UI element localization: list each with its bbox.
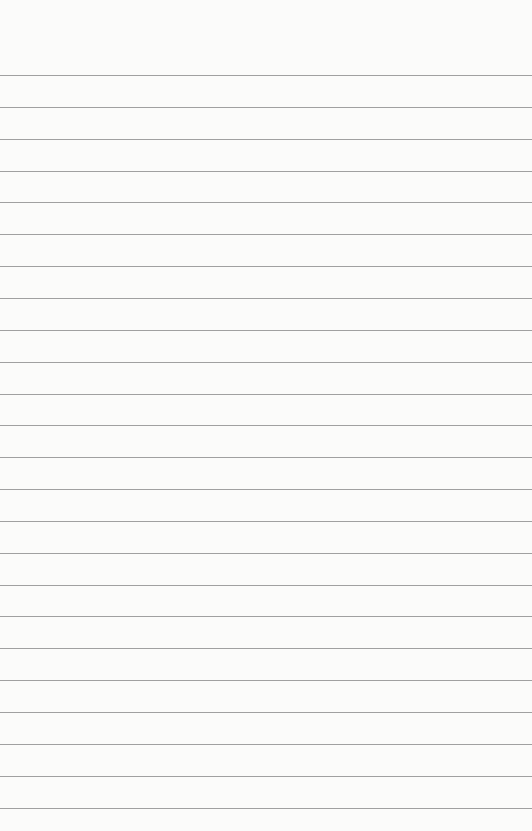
ruled-line [0, 808, 532, 809]
ruled-line [0, 75, 532, 76]
ruled-line [0, 362, 532, 363]
ruled-line [0, 616, 532, 617]
ruled-line [0, 394, 532, 395]
ruled-line [0, 585, 532, 586]
ruled-line [0, 776, 532, 777]
ruled-line [0, 648, 532, 649]
lined-paper-sheet [0, 0, 532, 831]
ruled-line [0, 107, 532, 108]
ruled-line [0, 171, 532, 172]
ruled-line [0, 234, 532, 235]
ruled-line [0, 298, 532, 299]
ruled-line [0, 202, 532, 203]
ruled-line [0, 139, 532, 140]
ruled-line [0, 425, 532, 426]
ruled-line [0, 680, 532, 681]
ruled-line [0, 489, 532, 490]
ruled-line [0, 266, 532, 267]
ruled-line [0, 712, 532, 713]
ruled-line [0, 521, 532, 522]
ruled-line [0, 744, 532, 745]
ruled-line [0, 553, 532, 554]
ruled-line [0, 330, 532, 331]
ruled-line [0, 457, 532, 458]
